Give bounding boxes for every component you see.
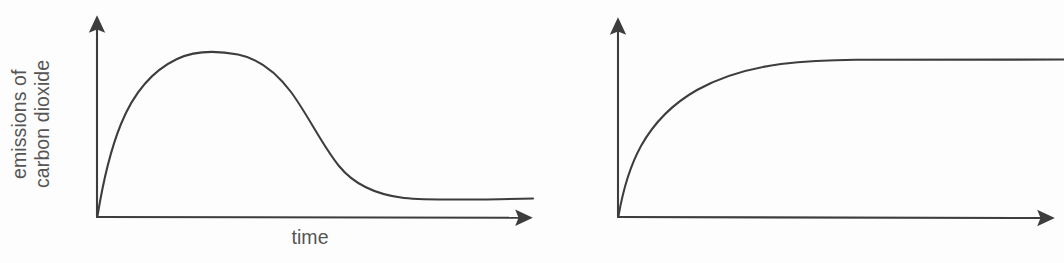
y-axis-label-emissions-line1: emissions of	[8, 24, 31, 224]
x-axis-label-emissions: time	[250, 226, 370, 249]
y-axis-label-emissions-line2: carbon dioxide	[31, 24, 54, 224]
y-axis-label-emissions: emissions of carbon dioxide	[8, 24, 54, 224]
panel-concentrations: concentrations of carbon dioxide time	[532, 0, 1064, 263]
figure-container: emissions of carbon dioxide time concent…	[0, 0, 1064, 263]
panel-emissions: emissions of carbon dioxide time	[0, 0, 532, 263]
